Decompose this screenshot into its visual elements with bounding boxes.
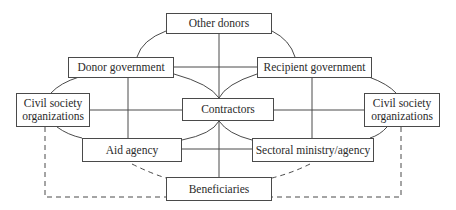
- node-label-line2: organizations: [371, 110, 433, 123]
- arc-civil-right-to-sectoral: [370, 127, 387, 138]
- node-label: Recipient government: [264, 61, 366, 74]
- arc-recipient-gov-to-contractors: [219, 74, 257, 98]
- arc-contractors-to-aid-agency: [182, 121, 219, 140]
- node-civil-society-left: Civil society organizations: [16, 93, 90, 127]
- node-label: Sectoral ministry/agency: [256, 144, 371, 157]
- arc-civil-left-to-aid-agency: [57, 127, 82, 138]
- node-label: Aid agency: [106, 144, 159, 157]
- arc-donor-gov-to-contractors: [174, 74, 219, 98]
- node-contractors: Contractors: [182, 98, 274, 121]
- node-beneficiaries: Beneficiaries: [166, 177, 272, 201]
- arc-recipient-gov-to-civil-right: [369, 77, 396, 93]
- node-other-donors: Other donors: [166, 13, 272, 34]
- node-label-line1: Civil society: [373, 97, 431, 110]
- aid-relationships-diagram: Other donors Donor government Recipient …: [0, 0, 456, 210]
- node-label: Beneficiaries: [189, 183, 250, 196]
- node-donor-government: Donor government: [68, 57, 174, 78]
- dashed-aid-agency-to-beneficiaries: [132, 164, 166, 178]
- arc-donor-gov-to-civil-left: [51, 77, 79, 93]
- node-label: Donor government: [77, 61, 164, 74]
- node-recipient-government: Recipient government: [257, 57, 372, 78]
- arc-other-donors-to-donor-gov: [137, 31, 166, 57]
- node-label: Other donors: [189, 17, 249, 30]
- arc-other-donors-to-recipient-gov: [272, 31, 295, 57]
- arc-contractors-to-sectoral: [219, 121, 252, 140]
- node-sectoral-ministry: Sectoral ministry/agency: [252, 138, 374, 162]
- node-label: Contractors: [201, 103, 255, 116]
- node-label-line1: Civil society: [24, 97, 82, 110]
- dashed-sectoral-to-beneficiaries: [272, 164, 310, 178]
- node-aid-agency: Aid agency: [82, 138, 182, 162]
- node-civil-society-right: Civil society organizations: [364, 93, 440, 127]
- node-label-line2: organizations: [22, 110, 84, 123]
